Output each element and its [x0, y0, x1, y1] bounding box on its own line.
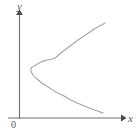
x-axis: [8, 115, 127, 122]
parabola-curve-group: [31, 23, 105, 113]
plot-canvas: [0, 0, 136, 136]
parabola-curve: [31, 23, 105, 113]
parabola-figure: y x 0: [0, 0, 136, 136]
origin-label: 0: [11, 120, 16, 130]
y-axis-label: y: [17, 1, 22, 12]
x-axis-label: x: [128, 113, 133, 124]
x-axis-arrow-icon: [121, 115, 127, 122]
y-axis: [16, 10, 23, 120]
